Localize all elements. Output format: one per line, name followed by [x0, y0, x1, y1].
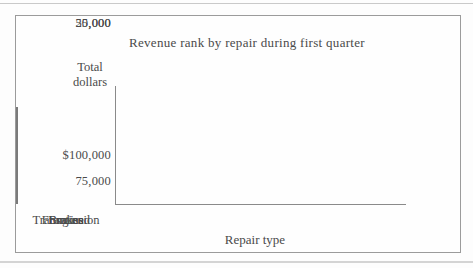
- y-tick-label-100000: $100,000: [34, 148, 111, 162]
- y-axis-title-line2: dollars: [60, 75, 120, 90]
- y-axis-title: Total dollars: [60, 60, 120, 90]
- chart-frame: Revenue rank by repair during first quar…: [15, 15, 461, 253]
- page: Revenue rank by repair during first quar…: [0, 0, 473, 268]
- y-axis-title-line1: Total: [60, 60, 120, 75]
- x-axis-line: [115, 204, 406, 205]
- y-tick-label-75000: 75,000: [34, 174, 111, 188]
- page-rule-top: [0, 3, 473, 4]
- y-axis-line: [115, 86, 116, 204]
- page-rule-bottom: [0, 261, 473, 263]
- x-axis-title: Repair type: [195, 232, 315, 248]
- bar-brakes: [16, 164, 18, 204]
- chart-title: Revenue rank by repair during first quar…: [16, 35, 460, 51]
- x-tick-label-brakes: Brakes: [16, 213, 116, 227]
- y-tick-label-25000: 25,000: [34, 16, 111, 30]
